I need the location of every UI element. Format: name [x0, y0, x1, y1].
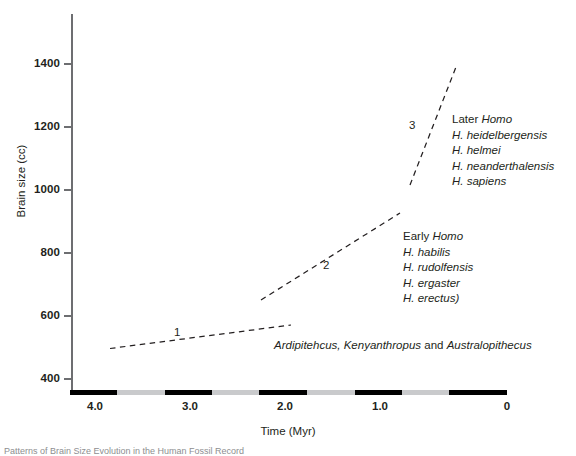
trend-lines-group [0, 0, 576, 456]
y-tick-label-400: 400 [14, 372, 60, 384]
annotation-australopiths-part3: Australopithecus [447, 339, 532, 351]
trend-label-2: 2 [323, 259, 329, 271]
early-homo-heading-italic: Homo [432, 230, 463, 242]
trend-line-3 [410, 67, 456, 185]
y-tick-mark-1400 [64, 63, 72, 65]
figure-caption: Patterns of Brain Size Evolution in the … [4, 446, 564, 456]
y-tick-label-600: 600 [14, 309, 60, 321]
x-axis-segment-light-4 [402, 390, 449, 395]
x-axis-segment-light-2 [212, 390, 259, 395]
x-tick-label-1-0: 1.0 [360, 400, 400, 412]
annotation-later-homo: Later Homo H. heidelbergensis H. helmei … [452, 112, 554, 190]
annotation-early-homo-heading: Early Homo [403, 229, 473, 245]
later-homo-heading-italic: Homo [481, 113, 512, 125]
annotation-australopiths-conjunction: and [421, 339, 447, 351]
annotation-early-homo-species-3: H. ergaster [403, 276, 473, 292]
annotation-early-homo-species-1: H. habilis [403, 245, 473, 261]
annotation-early-homo-species-2: H. rudolfensis [403, 260, 473, 276]
trend-line-2 [261, 213, 400, 300]
annotation-australopiths: Ardipitehcus, Kenyanthropus and Australo… [274, 338, 532, 354]
y-tick-mark-1200 [64, 126, 72, 128]
y-tick-mark-800 [64, 252, 72, 254]
y-tick-mark-400 [64, 378, 72, 380]
x-tick-label-2-0: 2.0 [265, 400, 305, 412]
y-tick-mark-1000 [64, 189, 72, 191]
x-axis-segment-light-3 [307, 390, 355, 395]
annotation-later-homo-species-4: H. sapiens [452, 174, 554, 190]
annotation-early-homo-species-4: H. erectus) [403, 291, 473, 307]
annotation-later-homo-species-1: H. heidelbergensis [452, 128, 554, 144]
x-axis-segment-light-1 [117, 390, 165, 395]
trend-label-3: 3 [409, 119, 415, 131]
brain-size-chart: 1400 1200 1000 800 600 400 Brain size (c… [0, 0, 576, 456]
y-tick-mark-600 [64, 315, 72, 317]
annotation-early-homo: Early Homo H. habilis H. rudolfensis H. … [403, 229, 473, 307]
y-tick-label-800: 800 [14, 246, 60, 258]
x-axis-title: Time (Myr) [218, 425, 358, 437]
annotation-later-homo-heading: Later Homo [452, 112, 554, 128]
y-axis-line [71, 14, 73, 392]
trend-label-1: 1 [174, 326, 180, 338]
x-tick-label-4-0: 4.0 [75, 400, 115, 412]
early-homo-heading-plain: Early [403, 230, 432, 242]
annotation-australopiths-part1: Ardipitehcus, Kenyanthropus [274, 339, 421, 351]
y-axis-title: Brain size (cc) [15, 116, 27, 246]
trend-line-1 [110, 325, 291, 349]
annotation-later-homo-species-3: H. neanderthalensis [452, 159, 554, 175]
x-tick-label-3-0: 3.0 [170, 400, 210, 412]
later-homo-heading-plain: Later [452, 113, 481, 125]
annotation-later-homo-species-2: H. helmei [452, 143, 554, 159]
x-tick-label-0: 0 [487, 400, 527, 412]
x-axis-bar [70, 390, 507, 395]
y-tick-label-1400: 1400 [14, 57, 60, 69]
